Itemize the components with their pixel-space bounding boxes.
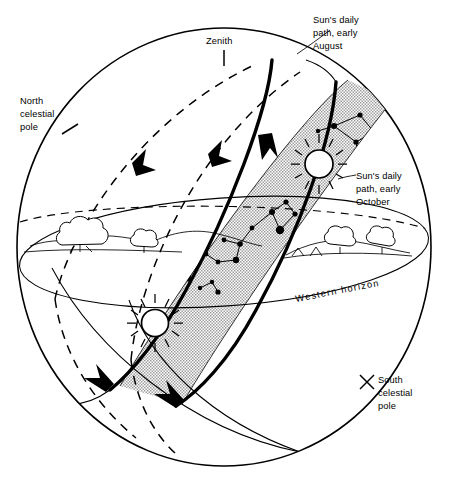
tree-cluster-left: [56, 216, 108, 245]
arrowhead-october-upper: [258, 133, 278, 160]
star: [331, 123, 337, 129]
sun-october-disc: [142, 310, 169, 337]
western-horizon-label: Western horizon: [294, 278, 380, 304]
north-pole-tick-marker: [62, 124, 78, 134]
august-line-3: August: [313, 41, 343, 51]
star: [138, 290, 142, 294]
star: [122, 316, 127, 321]
spc-line-3: pole: [378, 401, 396, 411]
npc-line-3: pole: [20, 122, 38, 132]
star: [116, 332, 121, 337]
star: [250, 226, 255, 231]
npc-line-1: North: [20, 96, 43, 106]
tree-cluster-left-2: [130, 229, 158, 247]
star: [237, 241, 243, 247]
spc-line-1: South: [378, 375, 403, 385]
zenith-label: Zenith: [206, 36, 232, 46]
october-line-1: Sun's daily: [356, 171, 402, 181]
star: [210, 280, 214, 284]
sun-august-disc: [305, 150, 333, 178]
october-line-2: path, early: [356, 184, 401, 194]
star: [355, 152, 361, 158]
south-celestial-pole-label: South celestial pole: [378, 375, 413, 411]
tree-cluster-right-2: [366, 226, 395, 246]
august-line-2: path, early: [313, 28, 358, 38]
tree-cluster-right: [324, 226, 355, 246]
star: [168, 282, 172, 286]
star: [198, 286, 202, 290]
august-line-1: Sun's daily: [313, 15, 359, 25]
star: [292, 211, 297, 216]
star: [215, 289, 220, 294]
star: [283, 199, 288, 204]
sun-path-august-label: Sun's daily path, early August: [313, 15, 359, 51]
star-bright: [276, 226, 284, 234]
diagram-canvas: Zenith North celestial pole South celest…: [0, 0, 449, 490]
arrowhead-star-path-1: [132, 149, 156, 176]
star: [357, 112, 362, 117]
celestial-sphere-figure: Zenith North celestial pole South celest…: [0, 0, 449, 490]
npc-line-2: celestial: [20, 109, 55, 119]
star: [316, 129, 320, 133]
star: [222, 238, 227, 243]
star: [233, 257, 239, 263]
spc-line-2: celestial: [378, 388, 413, 398]
october-line-3: October: [356, 197, 390, 207]
north-celestial-pole-label: North celestial pole: [20, 96, 55, 132]
south-pole-x-marker: [360, 375, 374, 389]
star: [353, 139, 358, 144]
sun-path-august-top: [306, 60, 336, 82]
star: [216, 260, 221, 265]
arrowhead-star-path-2: [208, 140, 232, 167]
star: [269, 209, 275, 215]
star: [371, 129, 376, 134]
star-path-dashed-1-lower: [55, 299, 136, 438]
arrowhead-october-lower: [84, 364, 114, 392]
landscape-right: [284, 226, 412, 258]
sun-path-october-label: Sun's daily path, early October: [356, 171, 402, 207]
star: [152, 286, 156, 290]
